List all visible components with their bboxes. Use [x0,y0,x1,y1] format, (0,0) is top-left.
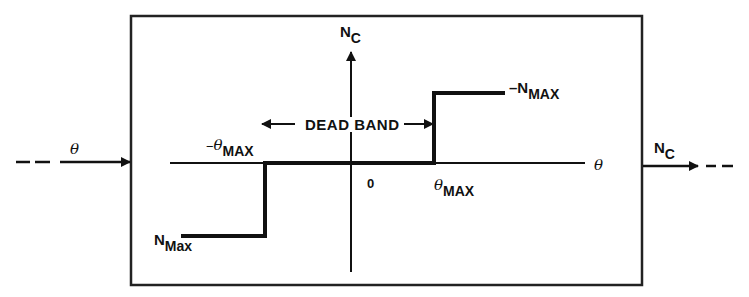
upper-sub: MAX [528,86,559,102]
neg-sub: MAX [223,143,254,159]
upper-level-label: –NMAX [509,80,559,95]
negative-threshold-label: –θMAX [206,137,254,153]
positive-threshold-label: θMAX [434,177,474,193]
dead-band-label: DEAD BAND [302,117,403,132]
upper-prefix: –N [509,79,528,96]
diagram-canvas [0,0,749,297]
lower-n: N [154,231,165,248]
lower-level-label: NMax [154,232,192,247]
input-theta-label: θ [70,142,79,157]
neg-theta: –θ [206,136,223,154]
vaxis-sub: C [351,30,361,46]
vaxis-n: N [340,23,351,40]
vertical-axis-label: NC [340,24,361,39]
horizontal-axis-label: θ [594,158,603,173]
transfer-curve [181,93,505,236]
pos-theta: θ [434,176,443,194]
output-sub: C [665,146,675,162]
lower-sub: Max [165,238,192,254]
origin-label: 0 [367,177,374,190]
output-nc-label: NC [654,140,675,155]
pos-sub: MAX [443,183,474,199]
output-n: N [654,139,665,156]
